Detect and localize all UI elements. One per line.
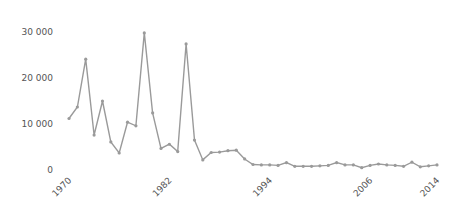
data-point [268,163,271,166]
data-point [385,163,388,166]
y-tick-label: 20 000 [22,73,54,83]
data-point [318,164,321,167]
x-tick-label: 1982 [151,175,174,198]
data-point [427,164,430,167]
y-axis: 010 00020 00030 000 [22,27,54,175]
data-point [218,150,221,153]
data-point [335,161,338,164]
y-tick-label: 30 000 [22,27,54,37]
data-point [101,99,104,102]
data-point [251,163,254,166]
data-point [352,163,355,166]
data-point [210,151,213,154]
data-point [410,161,413,164]
data-point [377,162,380,165]
x-tick-label: 1994 [251,175,274,198]
data-point [134,124,137,127]
data-point [184,42,187,45]
data-line [69,33,437,168]
data-point [151,111,154,114]
data-point [302,165,305,168]
data-point [126,121,129,124]
data-point [293,165,296,168]
x-tick-label: 1970 [50,175,73,198]
data-point [92,133,95,136]
data-point [310,165,313,168]
data-point [243,157,246,160]
y-tick-label: 10 000 [22,119,54,129]
data-point [402,165,405,168]
data-point [226,149,229,152]
data-point [327,164,330,167]
data-point [143,31,146,34]
plot-area [67,31,438,169]
data-point [84,58,87,61]
data-point [285,161,288,164]
data-point [435,163,438,166]
x-axis: 19701982199420062014 [50,175,441,198]
data-point [419,165,422,168]
data-point [368,164,371,167]
data-point [159,147,162,150]
data-point [193,139,196,142]
data-point [118,151,121,154]
data-point [276,164,279,167]
line-chart: 010 00020 00030 000 19701982199420062014 [0,0,457,205]
data-point [201,158,204,161]
y-tick-label: 0 [47,165,53,175]
data-point [168,143,171,146]
data-point [343,163,346,166]
data-point [260,163,263,166]
data-point [109,140,112,143]
data-point [394,164,397,167]
data-point [235,149,238,152]
x-tick-label: 2014 [418,175,441,198]
data-points [67,31,438,169]
data-point [176,150,179,153]
data-point [360,166,363,169]
data-point [67,117,70,120]
x-tick-label: 2006 [351,175,374,198]
data-point [76,105,79,108]
